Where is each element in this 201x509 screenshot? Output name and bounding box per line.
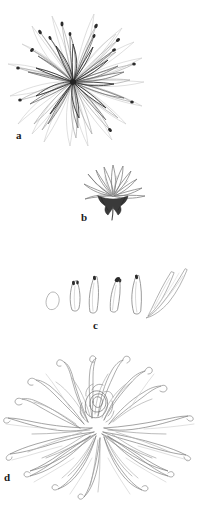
specimen-1-disc-floret bbox=[46, 292, 59, 310]
specimen-7-sweeping-floret bbox=[146, 269, 187, 318]
specimen-2-short-petal bbox=[70, 280, 80, 311]
side-view-petals bbox=[84, 165, 145, 199]
panel-c-floret-specimens bbox=[28, 264, 201, 322]
flower-center-node bbox=[70, 79, 76, 84]
panel-d-full-bloom bbox=[0, 352, 201, 509]
panel-c-drawing bbox=[28, 264, 201, 322]
panel-a-drawing bbox=[0, 2, 201, 152]
panel-d-drawing bbox=[0, 352, 201, 509]
specimen-5-long-petal bbox=[130, 274, 142, 314]
specimen-3-slender-petal bbox=[89, 275, 98, 313]
panel-a-radial-flower bbox=[0, 2, 201, 152]
specimen-4-notched-petal bbox=[109, 276, 121, 312]
panel-label-a: a bbox=[16, 130, 22, 141]
panel-label-b: b bbox=[81, 212, 87, 223]
panel-label-d: d bbox=[4, 472, 10, 483]
botanical-figure-plate: a bbox=[0, 0, 201, 509]
panel-label-c: c bbox=[93, 320, 98, 331]
